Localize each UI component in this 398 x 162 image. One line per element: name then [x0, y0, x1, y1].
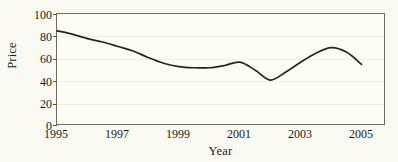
- plot-area: [56, 13, 385, 125]
- x-tick-label: 2005: [339, 128, 383, 140]
- x-tick-label: 1999: [156, 128, 200, 140]
- x-tick-label: 2001: [217, 128, 261, 140]
- x-tick-label: 1997: [95, 128, 139, 140]
- series-line-price: [57, 31, 362, 80]
- y-tick-label: 20: [26, 98, 52, 110]
- series-layer: [57, 14, 386, 126]
- y-tick-label: 60: [26, 53, 52, 65]
- x-axis-title: Year: [56, 144, 385, 159]
- y-tick-label: 40: [26, 76, 52, 88]
- x-tick-label: 1995: [34, 128, 78, 140]
- y-axis-title: Price: [5, 26, 20, 86]
- x-tick-label: 2003: [278, 128, 322, 140]
- line-chart: Price 100 80 60 40 20 0 1995 1997 1999 2…: [0, 0, 398, 162]
- y-tick-label: 80: [26, 31, 52, 43]
- y-tick-label: 100: [26, 9, 52, 21]
